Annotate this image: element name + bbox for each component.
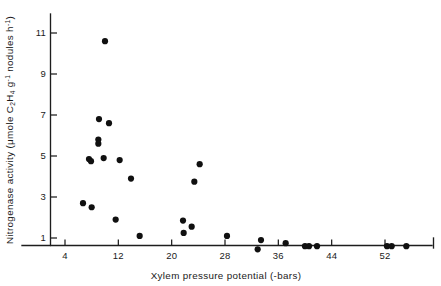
- data-point: [88, 158, 94, 164]
- data-point: [106, 120, 112, 126]
- y-tick-label: 7: [41, 109, 46, 120]
- x-tick-label: 52: [380, 250, 391, 261]
- x-axis-ticks: 4122028364452: [62, 240, 390, 262]
- y-tick-label: 3: [41, 191, 46, 202]
- x-tick-label: 4: [62, 250, 67, 261]
- data-point: [258, 237, 264, 243]
- y-tick-label: 5: [41, 150, 46, 161]
- data-point: [113, 216, 119, 222]
- y-tick-label: 11: [36, 27, 46, 38]
- y-axis-ticks: 1357911: [36, 27, 57, 243]
- y-axis-title: Nitrogenase activity (μmole C2H4 g-1 nod…: [4, 16, 17, 244]
- y-axis-title-prefix: Nitrogenase activity (: [4, 145, 15, 245]
- data-point: [181, 230, 187, 236]
- data-points-layer: [80, 38, 410, 252]
- data-point: [189, 224, 195, 230]
- data-point: [224, 233, 230, 239]
- data-point: [389, 243, 395, 249]
- x-tick-label: 44: [326, 250, 337, 261]
- data-point: [191, 179, 197, 185]
- data-point: [128, 175, 134, 181]
- data-point: [137, 233, 143, 239]
- data-point: [403, 243, 409, 249]
- data-point: [314, 243, 320, 249]
- y-tick-label: 1: [41, 232, 46, 243]
- plot-canvas: 1357911 4122028364452 Xylem pressure pot…: [0, 0, 441, 286]
- data-point: [306, 243, 312, 249]
- x-tick-label: 12: [113, 250, 124, 261]
- data-point: [283, 240, 289, 246]
- y-tick-label: 9: [41, 68, 46, 79]
- data-point: [197, 161, 203, 167]
- data-point: [95, 141, 101, 147]
- data-point: [101, 155, 107, 161]
- x-axis-title: Xylem pressure potential (-bars): [151, 270, 302, 281]
- x-tick-label: 20: [166, 250, 177, 261]
- y-axis-title-unit-1: μmole C: [4, 106, 15, 145]
- scatter-plot-figure: 1357911 4122028364452 Xylem pressure pot…: [0, 0, 441, 286]
- y-axis-title-unit-2: H: [4, 94, 15, 101]
- data-point: [255, 246, 261, 252]
- data-point: [89, 204, 95, 210]
- y-axis-title-suffix: ): [4, 16, 15, 20]
- data-point: [96, 116, 102, 122]
- data-point: [117, 157, 123, 163]
- y-axis-title-unit-4: nodules h: [4, 26, 15, 75]
- y-axis-title-unit-3: g: [4, 81, 15, 90]
- x-tick-label: 28: [220, 250, 231, 261]
- data-point: [80, 200, 86, 206]
- data-point: [102, 38, 108, 44]
- svg-text:Nitrogenase activity (μmole C2: Nitrogenase activity (μmole C2H4 g-1 nod…: [4, 16, 17, 244]
- data-point: [180, 217, 186, 223]
- x-tick-label: 36: [273, 250, 284, 261]
